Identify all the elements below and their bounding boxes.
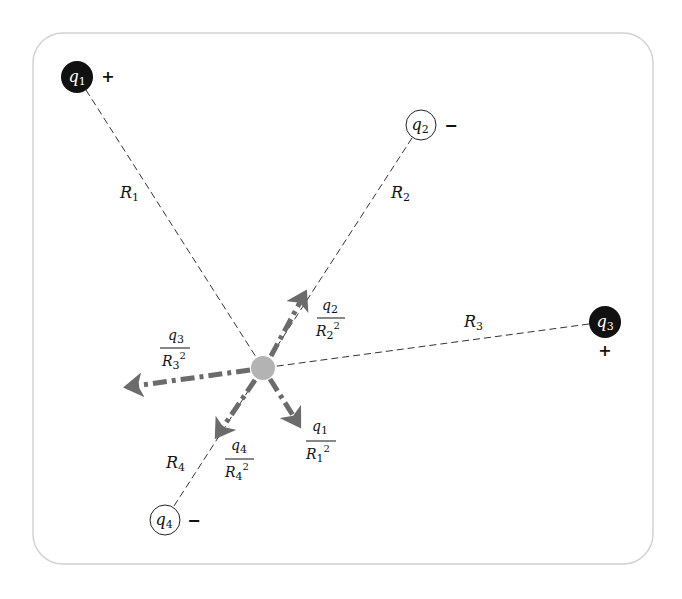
label-r2: R2 [390,183,410,204]
distance-line-r2 [263,138,412,368]
force-arrow-q3 [127,370,250,387]
svg-text:R42: R42 [224,461,249,483]
label-r4: R4 [165,453,185,474]
force-arrow-q4 [217,380,255,436]
fraction-q3-r3: q3 R32 [160,327,190,372]
force-arrow-q2 [271,293,305,356]
charge-q2: q2 − [406,110,458,140]
distance-line-r3 [263,324,589,368]
sign-minus: − [187,511,200,530]
svg-text:q4: q4 [231,437,247,456]
sign-plus: + [101,67,114,86]
fraction-q4-r4: q4 R42 [224,437,254,483]
force-arrow-q1 [270,379,299,425]
sign-minus: − [444,116,457,135]
diagram-frame [33,33,653,564]
fraction-q1-r1: q1 R12 [305,418,336,465]
charge-q3: q3 + [589,306,621,360]
sign-plus: + [598,341,611,360]
fraction-q2-r2: q2 R22 [315,297,345,342]
charge-q4: q4 − [150,505,201,535]
svg-text:R22: R22 [315,320,340,342]
svg-text:R12: R12 [305,443,330,465]
svg-text:q3: q3 [168,327,184,346]
label-r3: R3 [463,312,483,333]
svg-text:q1: q1 [312,418,328,437]
label-r1: R1 [119,183,139,204]
svg-text:q2: q2 [322,297,338,316]
charge-q1: q1 + [61,61,115,93]
test-charge [251,356,275,380]
svg-text:R32: R32 [161,350,186,372]
force-diagram: q1 + q2 − q3 + q4 − R1 R2 R3 R4 q2 R22 q… [0,0,682,599]
